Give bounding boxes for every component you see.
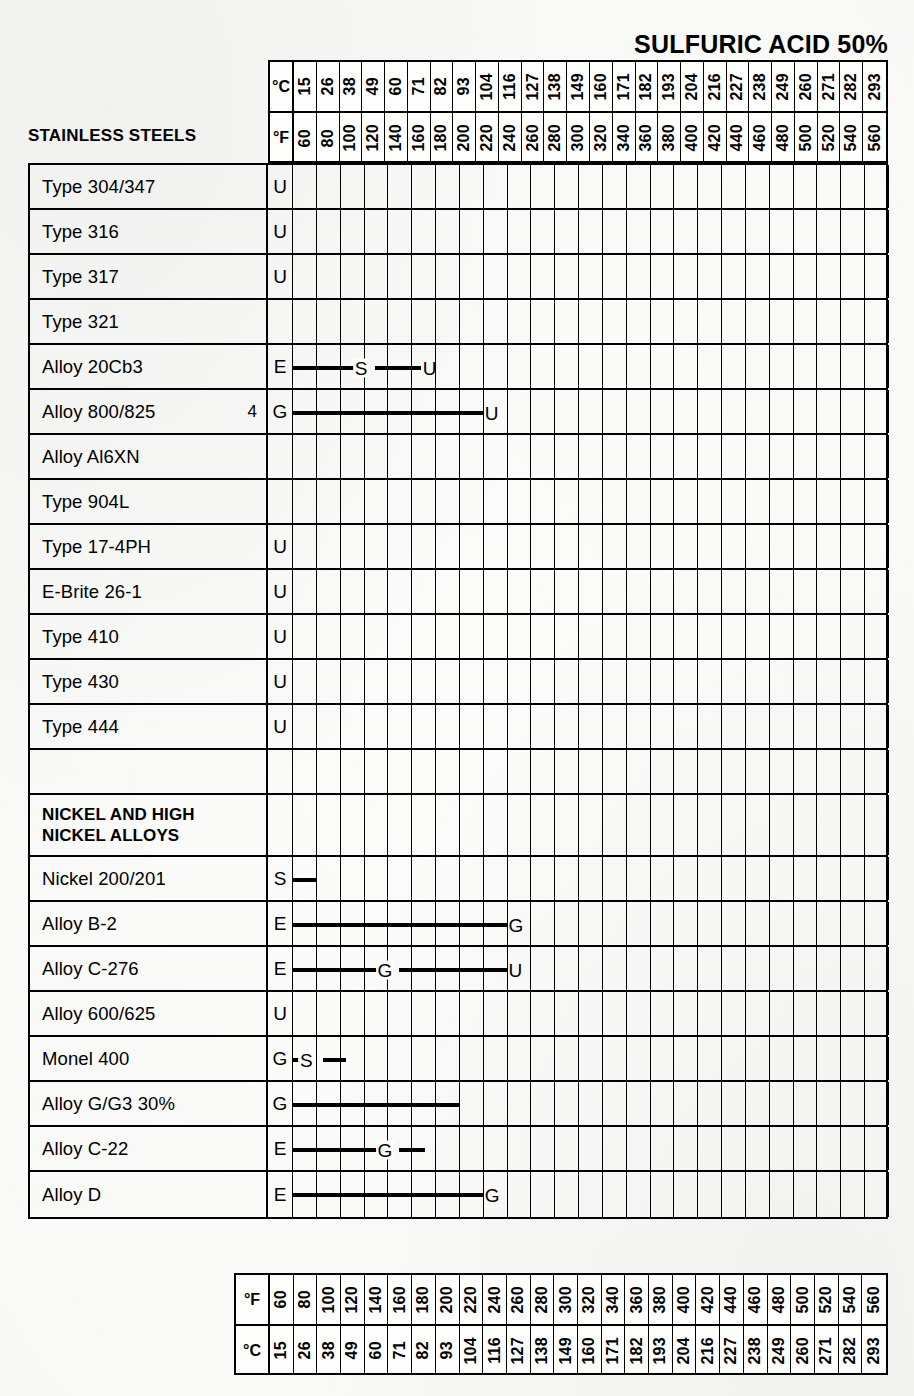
grid-line	[650, 1172, 651, 1217]
axis-tick: 171	[602, 1326, 626, 1375]
grid-line	[840, 255, 841, 298]
axis-tick-label: 71	[392, 1341, 408, 1359]
rating-range-bar	[323, 1058, 346, 1062]
grid-line	[650, 992, 651, 1035]
alloy-name-text: Alloy C-276	[42, 958, 139, 980]
grid-line	[793, 525, 794, 568]
grid-line	[340, 300, 341, 343]
table-row: Alloy DEG	[30, 1172, 886, 1217]
alloy-name-label: Alloy D	[30, 1172, 268, 1217]
axis-tick-label: 520	[821, 124, 837, 152]
grid-line	[459, 435, 460, 478]
row-grid: GS	[268, 1037, 886, 1080]
grid-line	[530, 165, 531, 208]
grid-line	[793, 435, 794, 478]
table-row: Alloy 600/625U	[30, 992, 886, 1037]
page-title: SULFURIC ACID 50%	[634, 30, 888, 59]
grid-line	[602, 390, 603, 433]
grid-line	[626, 1082, 627, 1125]
grid-line	[626, 345, 627, 388]
grid-line	[673, 1172, 674, 1217]
grid-line	[888, 857, 889, 900]
grid-line	[459, 1127, 460, 1170]
grid-line	[578, 615, 579, 658]
alloy-name-label: Type 904L	[30, 480, 268, 523]
grid-line	[554, 795, 555, 855]
grid-line	[840, 165, 841, 208]
grid-line	[554, 210, 555, 253]
grid-line	[697, 947, 698, 990]
axis-tick-label: 249	[775, 73, 791, 101]
axis-tick-label: 38	[342, 77, 358, 95]
grid-line	[650, 1127, 651, 1170]
grid-line	[864, 1127, 865, 1170]
axis-tick-label: 320	[581, 1286, 597, 1314]
grid-line	[650, 165, 651, 208]
axis-tick: 420	[696, 1275, 720, 1324]
grid-line	[793, 947, 794, 990]
row-grid: ESU	[268, 345, 886, 388]
axis-tick-label: 238	[747, 1337, 763, 1365]
temperature-scale-header: °C °F 1526384960718293104116127138149160…	[268, 60, 888, 163]
grid-line	[840, 947, 841, 990]
axis-tick-label: 171	[616, 73, 632, 101]
rating-code-transition: G	[483, 1185, 500, 1204]
grid-line	[816, 660, 817, 703]
grid-line	[554, 525, 555, 568]
axis-tick-label: 127	[525, 73, 541, 101]
grid-line	[864, 345, 865, 388]
grid-line	[483, 1082, 484, 1125]
axis-tick: 38	[340, 62, 363, 111]
grid-line	[602, 210, 603, 253]
grid-line	[316, 255, 317, 298]
grid-line	[507, 525, 508, 568]
axis-tick: 440	[720, 1275, 744, 1324]
grid-line	[650, 902, 651, 945]
group-header-row: NICKEL AND HIGHNICKEL ALLOYS	[30, 795, 886, 857]
axis-tick: 280	[544, 113, 567, 163]
alloy-name-label: Type 317	[30, 255, 268, 298]
alloy-name-label: Type 304/347	[30, 165, 268, 208]
alloy-name-label: Alloy 800/8254	[30, 390, 268, 433]
grid-line	[888, 345, 889, 388]
alloy-name-text: Type 410	[42, 626, 119, 648]
grid-line	[745, 300, 746, 343]
alloy-name-label: Alloy 20Cb3	[30, 345, 268, 388]
grid-line	[673, 947, 674, 990]
grid-line	[530, 1127, 531, 1170]
alloy-name-text: Nickel 200/201	[42, 868, 166, 890]
axis-tick: 193	[649, 1326, 673, 1375]
grid-line	[554, 750, 555, 793]
grid-line	[721, 390, 722, 433]
grid-line	[840, 300, 841, 343]
axis-tick-label: 49	[365, 77, 381, 95]
grid-line	[626, 992, 627, 1035]
axis-tick-label: 100	[321, 1286, 337, 1314]
alloy-name-label: Type 321	[30, 300, 268, 343]
grid-line	[459, 1082, 460, 1125]
rating-code-start: U	[268, 210, 292, 253]
axis-tick: 340	[602, 1275, 626, 1324]
grid-line	[435, 795, 436, 855]
axis-tick-label: 340	[616, 124, 632, 152]
grid-line	[864, 857, 865, 900]
grid-line	[554, 902, 555, 945]
grid-line	[292, 255, 293, 298]
grid-line	[864, 255, 865, 298]
axis-tick: 360	[625, 1275, 649, 1324]
grid-line	[602, 615, 603, 658]
grid-line	[673, 795, 674, 855]
grid-line	[507, 435, 508, 478]
grid-line	[411, 992, 412, 1035]
grid-line	[435, 525, 436, 568]
grid-line	[316, 660, 317, 703]
axis-tick: 138	[531, 1326, 555, 1375]
grid-line	[769, 795, 770, 855]
alloy-name-label: Alloy B-2	[30, 902, 268, 945]
grid-line	[673, 300, 674, 343]
axis-tick-label: 116	[487, 1337, 503, 1364]
rating-code-transition: S	[353, 358, 369, 377]
grid-line	[507, 992, 508, 1035]
alloy-name-label: Type 444	[30, 705, 268, 748]
grid-line	[602, 857, 603, 900]
